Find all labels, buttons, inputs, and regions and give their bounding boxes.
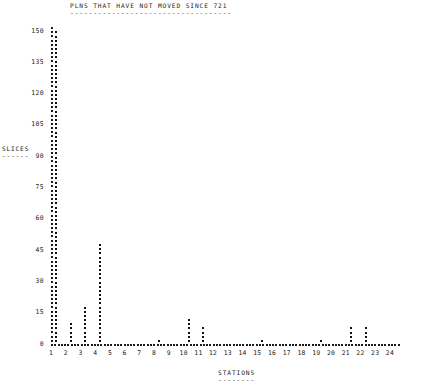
data-point-dot <box>55 140 57 142</box>
y-axis-tick-mark <box>51 286 53 288</box>
y-axis-tick-mark <box>51 290 53 292</box>
x-axis-tick-mark <box>87 344 89 346</box>
data-point-dot <box>55 73 57 75</box>
data-point-dot <box>99 327 101 329</box>
x-axis-tick-mark <box>322 344 324 346</box>
y-axis-tick-mark <box>51 69 53 71</box>
x-axis-tick-mark <box>236 344 238 346</box>
y-axis-tick-mark <box>51 140 53 142</box>
x-axis-tick-label: 3 <box>72 350 88 357</box>
y-axis-tick-mark <box>51 240 53 242</box>
y-axis-tick-mark <box>51 177 53 179</box>
data-point-dot <box>55 165 57 167</box>
x-axis-tick-mark <box>388 344 390 346</box>
x-axis-tick-mark <box>292 344 294 346</box>
x-axis-tick-mark <box>71 344 73 346</box>
y-axis-tick-mark <box>51 261 53 263</box>
data-point-dot <box>55 169 57 171</box>
data-point-dot <box>99 286 101 288</box>
x-axis-tick-mark <box>275 344 277 346</box>
data-point-dot <box>84 340 86 342</box>
x-axis-tick-mark <box>193 344 195 346</box>
data-point-dot <box>55 286 57 288</box>
data-point-dot <box>202 332 204 334</box>
x-axis-tick-mark <box>58 344 60 346</box>
x-axis-tick-mark <box>318 344 320 346</box>
x-axis-tick-label: 14 <box>235 350 251 357</box>
y-axis-tick-mark <box>51 181 53 183</box>
x-axis-tick-mark <box>190 344 192 346</box>
x-axis-tick-mark <box>335 344 337 346</box>
x-axis-tick-mark <box>332 344 334 346</box>
y-axis-tick-mark <box>51 44 53 46</box>
y-axis-tick-mark <box>51 110 53 112</box>
x-axis-tick-mark <box>84 344 86 346</box>
x-axis-tick-mark <box>183 344 185 346</box>
data-point-dot <box>99 319 101 321</box>
y-axis-tick-mark <box>51 306 53 308</box>
data-point-dot <box>55 86 57 88</box>
data-point-dot <box>188 336 190 338</box>
data-point-dot <box>55 207 57 209</box>
x-axis-tick-label: 9 <box>161 350 177 357</box>
y-axis-tick-mark <box>51 127 53 129</box>
data-point-dot <box>99 311 101 313</box>
x-axis-tick-mark <box>170 344 172 346</box>
y-axis-tick-label: 0 <box>18 341 44 348</box>
data-point-dot <box>55 269 57 271</box>
y-axis-tick-mark <box>51 152 53 154</box>
y-axis-tick-mark <box>51 327 53 329</box>
x-axis-tick-label: 7 <box>131 350 147 357</box>
data-point-dot <box>55 240 57 242</box>
data-point-dot <box>84 323 86 325</box>
x-axis-tick-mark <box>77 344 79 346</box>
x-axis-tick-mark <box>315 344 317 346</box>
x-axis-tick-mark <box>355 344 357 346</box>
y-axis-tick-mark <box>51 194 53 196</box>
data-point-dot <box>55 61 57 63</box>
y-axis-tick-mark <box>51 248 53 250</box>
data-point-dot <box>55 227 57 229</box>
x-axis-tick-label: 17 <box>279 350 295 357</box>
x-axis-tick-mark <box>249 344 251 346</box>
y-axis-tick-mark <box>51 160 53 162</box>
data-point-dot <box>99 248 101 250</box>
x-axis-tick-mark <box>299 344 301 346</box>
x-axis-tick-label: 23 <box>367 350 383 357</box>
x-axis-tick-mark <box>394 344 396 346</box>
data-point-dot <box>55 186 57 188</box>
data-point-dot <box>70 323 72 325</box>
data-point-dot <box>99 244 101 246</box>
data-point-dot <box>99 269 101 271</box>
data-point-dot <box>55 148 57 150</box>
data-point-dot <box>55 323 57 325</box>
data-point-dot <box>55 132 57 134</box>
y-axis-tick-mark <box>51 119 53 121</box>
data-point-dot <box>55 161 57 163</box>
y-axis-tick-mark <box>51 265 53 267</box>
y-axis-tick-label: 120 <box>18 90 44 97</box>
y-axis-tick-mark <box>51 48 53 50</box>
x-axis-tick-mark <box>239 344 241 346</box>
x-axis-tick-mark <box>107 344 109 346</box>
x-axis-tick-mark <box>110 344 112 346</box>
y-axis-tick-mark <box>51 56 53 58</box>
y-axis-tick-mark <box>51 340 53 342</box>
y-axis-tick-label: 75 <box>18 184 44 191</box>
x-axis-tick-mark <box>361 344 363 346</box>
data-point-dot <box>99 307 101 309</box>
data-point-dot <box>55 157 57 159</box>
y-axis-tick-label: 150 <box>18 28 44 35</box>
x-axis-tick-mark <box>133 344 135 346</box>
x-axis-tick-mark <box>176 344 178 346</box>
x-axis-tick-mark <box>196 344 198 346</box>
data-point-dot <box>99 261 101 263</box>
x-axis-tick-mark <box>61 344 63 346</box>
data-point-dot <box>99 298 101 300</box>
y-axis-tick-mark <box>51 135 53 137</box>
x-axis-tick-mark <box>391 344 393 346</box>
x-axis-tick-mark <box>226 344 228 346</box>
data-point-dot <box>55 152 57 154</box>
x-axis-tick-mark <box>180 344 182 346</box>
y-axis-tick-mark <box>51 252 53 254</box>
